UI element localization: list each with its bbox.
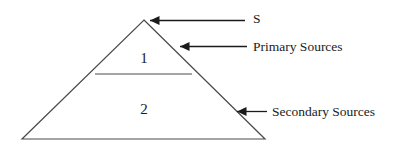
pyramid-outline bbox=[22, 20, 265, 139]
pyramid-diagram: 1 2 S Primary Sources Secondary Sources bbox=[0, 0, 403, 152]
apex-label: S bbox=[253, 11, 261, 26]
primary-sources-label: Primary Sources bbox=[253, 39, 343, 54]
tier-1-number: 1 bbox=[140, 50, 148, 66]
diagram-canvas: 1 2 S Primary Sources Secondary Sources bbox=[0, 0, 403, 152]
tier-2-number: 2 bbox=[140, 101, 148, 117]
secondary-sources-label: Secondary Sources bbox=[272, 104, 375, 119]
